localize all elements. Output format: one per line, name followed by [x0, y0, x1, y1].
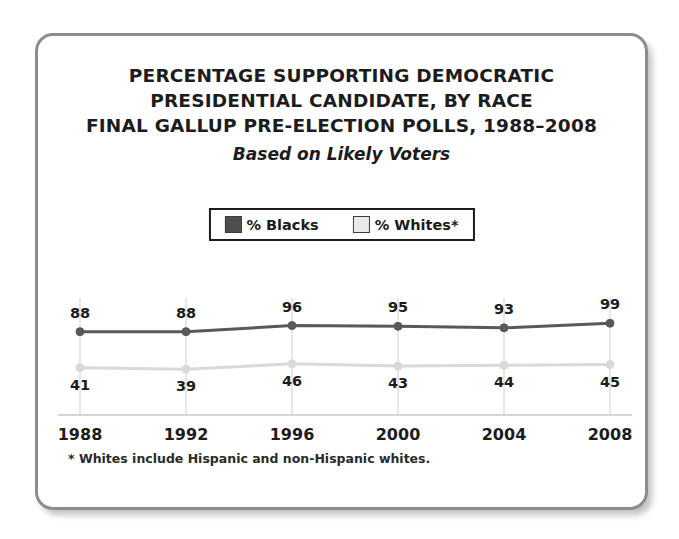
value-label: 39 [176, 378, 196, 394]
x-tick-label: 2004 [482, 425, 527, 444]
x-tick-label: 1988 [58, 425, 103, 444]
page-title-line-2: PRESIDENTIAL CANDIDATE, BY RACE [38, 88, 645, 113]
chart-legend: % Blacks % Whites* [208, 208, 474, 241]
legend-entry-blacks: % Blacks [224, 216, 318, 233]
value-label: 96 [282, 299, 302, 315]
legend-label-whites: % Whites* [375, 217, 459, 233]
value-label: 41 [70, 377, 90, 393]
x-tick-label: 2000 [376, 425, 421, 444]
legend-entry-whites: % Whites* [353, 216, 459, 233]
x-tick-label: 1992 [164, 425, 209, 444]
value-label: 44 [494, 374, 514, 390]
value-label: 95 [388, 299, 408, 315]
value-label: 43 [388, 375, 408, 391]
value-label: 99 [600, 296, 620, 312]
value-label: 88 [70, 305, 90, 321]
x-tick-label: 1996 [270, 425, 315, 444]
value-label: 45 [600, 374, 620, 390]
page-title-line-3: FINAL GALLUP PRE-ELECTION POLLS, 1988–20… [38, 113, 645, 138]
value-label: 93 [494, 301, 514, 317]
chart-footnote: * Whites include Hispanic and non-Hispan… [68, 451, 430, 466]
x-tick-label: 2008 [588, 425, 633, 444]
chart-frame: PERCENTAGE SUPPORTING DEMOCRATIC PRESIDE… [35, 33, 648, 510]
legend-swatch-whites-icon [353, 216, 370, 233]
value-label: 88 [176, 305, 196, 321]
page-title-line-1: PERCENTAGE SUPPORTING DEMOCRATIC [38, 63, 645, 88]
value-label: 46 [282, 373, 302, 389]
chart-title-block: PERCENTAGE SUPPORTING DEMOCRATIC PRESIDE… [38, 63, 645, 168]
legend-swatch-blacks-icon [224, 216, 241, 233]
legend-label-blacks: % Blacks [246, 217, 318, 233]
chart-subtitle: Based on Likely Voters [38, 141, 645, 168]
